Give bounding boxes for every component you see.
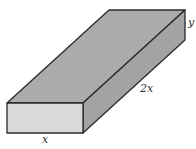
label-length-2x: 2x — [139, 82, 154, 95]
label-width-x: x — [42, 133, 49, 146]
label-height-y: y — [187, 16, 195, 29]
front-face — [7, 103, 83, 133]
box-diagram: x 2x y — [0, 0, 196, 149]
